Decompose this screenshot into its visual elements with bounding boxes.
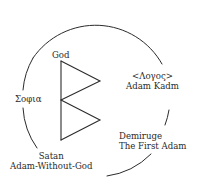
gnostic-diagram: God Σοφια <Λογος> Adam Kadm Demiruge The… (0, 0, 199, 189)
label-logos: <Λογος> Adam Kadm (126, 71, 179, 91)
satan-text: Satan (10, 151, 92, 161)
adam-kadm-text: Adam Kadm (126, 81, 179, 91)
circle-arc-left-upper (23, 58, 33, 90)
triangle-upper (61, 61, 100, 100)
triangle-lower (61, 100, 100, 140)
adam-without-god-text: Adam-Without-God (10, 161, 92, 171)
label-sophia: Σοφια (15, 94, 41, 104)
first-adam-text: The First Adam (119, 141, 186, 151)
circle-arc-right (165, 110, 169, 125)
circle-arc-left-lower (23, 108, 37, 148)
sophia-text: Σοφια (15, 94, 41, 104)
god-text: God (52, 50, 70, 60)
label-satan: Satan Adam-Without-God (10, 151, 92, 171)
label-god: God (52, 50, 70, 60)
logos-text: <Λογος> (126, 71, 179, 81)
demiurge-text: Demiruge (119, 131, 186, 141)
label-demiurge: Demiruge The First Adam (119, 131, 186, 151)
circle-arc-bottom-right (107, 154, 151, 176)
